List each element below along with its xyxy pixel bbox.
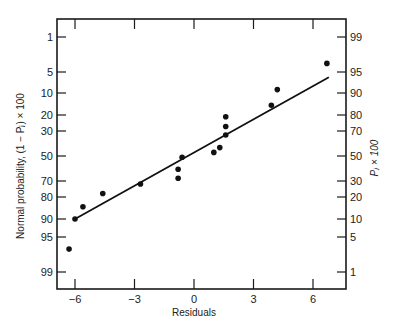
right-y-tick-label: 80 [350,109,362,121]
x-tick-label: 6 [310,293,316,305]
x-axis-title: Residuals [172,307,216,318]
x-tick-label: −3 [128,293,141,305]
normal-probability-plot: −6−3036 15102030507080909599 99959080705… [0,0,401,328]
x-tick-label: −6 [69,293,82,305]
right-y-tick-label: 30 [350,175,362,187]
right-y-tick-label: 50 [350,150,362,162]
left-y-tick-label: 10 [41,87,53,99]
left-y-tick-label: 20 [41,109,53,121]
left-y-tick-label: 95 [41,231,53,243]
right-y-tick-label: 10 [350,213,362,225]
right-y-tick-label: 5 [350,231,356,243]
right-y-tick-label: 90 [350,87,362,99]
right-y-axis: 99959080705030201051 [337,31,362,278]
data-point [211,150,217,156]
right-y-tick-label: 95 [350,66,362,78]
data-point [217,145,223,151]
data-point [223,132,229,138]
data-point [175,167,181,173]
right-y-tick-label: 70 [350,125,362,137]
left-y-tick-label: 80 [41,191,53,203]
data-point [179,154,185,160]
data-point [80,204,86,210]
left-y-tick-label: 30 [41,125,53,137]
left-y-tick-label: 5 [47,66,53,78]
left-y-axis-title: Normal probability, (1 − Pⱼ) × 100 [15,93,26,239]
left-y-tick-label: 70 [41,175,53,187]
left-y-tick-label: 1 [47,31,53,43]
data-point [66,246,72,252]
data-point [223,114,229,120]
plot-frame [57,19,346,289]
right-y-tick-label: 20 [350,191,362,203]
x-tick-label: 3 [250,293,256,305]
data-point [275,87,281,93]
left-y-tick-label: 90 [41,213,53,225]
x-tick-label: 0 [191,293,197,305]
right-y-tick-label: 99 [350,31,362,43]
data-point [100,191,106,197]
fitted-line [75,77,329,219]
top-axis-ticks [75,19,313,29]
data-point [223,124,229,130]
left-y-tick-label: 50 [41,150,53,162]
x-axis: −6−3036 [69,279,316,305]
data-point [72,216,78,222]
right-y-axis-title: Pⱼ × 100 [369,139,380,176]
left-y-axis: 15102030507080909599 [41,31,66,278]
data-point [175,175,181,181]
data-point [324,61,330,67]
left-y-tick-label: 99 [41,266,53,278]
right-y-tick-label: 1 [350,266,356,278]
data-point [269,102,275,108]
data-point [138,181,144,187]
data-points [66,61,329,252]
